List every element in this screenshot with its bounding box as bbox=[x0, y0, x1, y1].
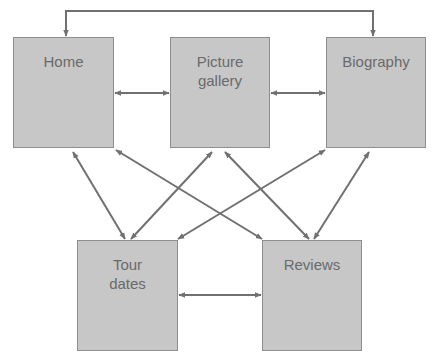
node-biography-label: Biography bbox=[327, 52, 425, 71]
arrow-home-reviews bbox=[116, 150, 262, 239]
node-reviews-label: Reviews bbox=[263, 255, 361, 274]
arrow-biography-reviews bbox=[314, 152, 369, 239]
node-home-label: Home bbox=[14, 52, 113, 71]
arrow-gallery-reviews bbox=[225, 152, 309, 239]
arrow-biography-tour bbox=[178, 150, 325, 239]
node-biography[interactable]: Biography bbox=[326, 37, 426, 148]
node-home[interactable]: Home bbox=[13, 37, 114, 148]
arrow-home-tour bbox=[73, 152, 125, 239]
site-map-diagram: Home Picture gallery Biography Tour date… bbox=[0, 0, 434, 364]
node-tour-dates-label: Tour dates bbox=[78, 255, 177, 293]
node-picture-gallery[interactable]: Picture gallery bbox=[170, 37, 270, 148]
node-tour-dates[interactable]: Tour dates bbox=[77, 240, 178, 351]
arrow-home-biography bbox=[66, 11, 373, 36]
node-reviews[interactable]: Reviews bbox=[262, 240, 362, 351]
node-picture-gallery-label: Picture gallery bbox=[171, 52, 269, 90]
